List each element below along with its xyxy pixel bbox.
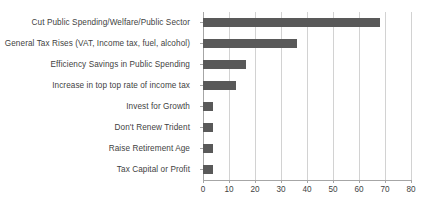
category-label: Raise Retirement Age	[109, 138, 190, 159]
category-label: Efficiency Savings in Public Spending	[51, 54, 190, 75]
x-axis-tick	[229, 180, 230, 183]
category-label: General Tax Rises (VAT, Income tax, fuel…	[5, 33, 190, 54]
category-label: Invest for Growth	[126, 96, 190, 117]
category-label: Increase in top top rate of income tax	[52, 75, 190, 96]
bar-row[interactable]	[203, 138, 411, 159]
bar[interactable]	[203, 81, 236, 90]
bar[interactable]	[203, 144, 213, 153]
bar-row[interactable]	[203, 96, 411, 117]
plot-area	[203, 12, 411, 180]
bar-row[interactable]	[203, 33, 411, 54]
bar-row[interactable]	[203, 159, 411, 180]
x-axis-tick-label: 50	[321, 185, 345, 194]
bar[interactable]	[203, 18, 380, 27]
x-axis-tick	[411, 180, 412, 183]
bar-row[interactable]	[203, 12, 411, 33]
bar[interactable]	[203, 102, 213, 111]
x-axis-tick-label: 80	[399, 185, 423, 194]
category-label: Cut Public Spending/Welfare/Public Secto…	[32, 12, 190, 33]
category-label: Don't Renew Trident	[115, 117, 190, 138]
bar-row[interactable]	[203, 117, 411, 138]
category-label: Tax Capital or Profit	[117, 159, 190, 180]
bar-row[interactable]	[203, 54, 411, 75]
bar[interactable]	[203, 39, 297, 48]
x-axis-tick	[333, 180, 334, 183]
gridline	[411, 12, 412, 180]
x-axis-tick-label: 70	[373, 185, 397, 194]
bar[interactable]	[203, 165, 213, 174]
x-axis-tick	[385, 180, 386, 183]
x-axis-tick	[281, 180, 282, 183]
x-axis-tick	[359, 180, 360, 183]
bar-row[interactable]	[203, 75, 411, 96]
x-axis-tick-label: 10	[217, 185, 241, 194]
x-axis-tick-label: 40	[295, 185, 319, 194]
bar[interactable]	[203, 123, 213, 132]
horizontal-bar-chart: Cut Public Spending/Welfare/Public Secto…	[0, 0, 425, 207]
category-axis-labels: Cut Public Spending/Welfare/Public Secto…	[0, 12, 196, 180]
x-axis-tick	[255, 180, 256, 183]
bar[interactable]	[203, 60, 246, 69]
x-axis-tick-label: 0	[191, 185, 215, 194]
x-axis-tick	[307, 180, 308, 183]
x-axis: 01020304050607080	[203, 180, 412, 202]
x-axis-tick	[203, 180, 204, 183]
x-axis-tick-label: 20	[243, 185, 267, 194]
x-axis-tick-label: 60	[347, 185, 371, 194]
x-axis-tick-label: 30	[269, 185, 293, 194]
